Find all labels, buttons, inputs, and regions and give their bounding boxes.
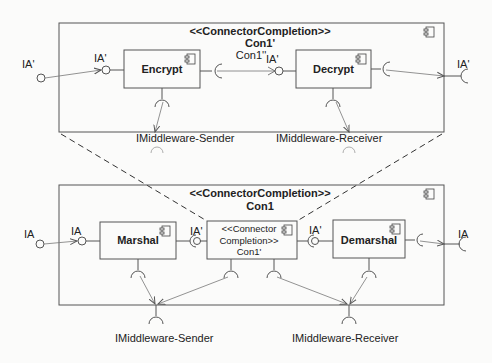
demarshal-port-label: IA': [309, 224, 322, 236]
connector-sender-socket: [224, 271, 238, 278]
encrypt-port-label: IA': [94, 52, 107, 64]
lower-outer-left-provided-port: [36, 240, 44, 248]
encrypt-label: Encrypt: [124, 63, 200, 75]
demarshal-component-icon: [390, 224, 400, 234]
zoom-line-right: [297, 134, 442, 221]
decrypt-label: Decrypt: [296, 63, 371, 75]
lower-outer-right-port-label: IA: [458, 228, 468, 240]
upper-composite-stereotype: <<ConnectorCompletion>>: [180, 25, 340, 37]
encrypt-provided-port: [102, 66, 110, 74]
lower-composite-name: Con1: [230, 200, 290, 212]
decrypt-port-label: IA': [266, 53, 279, 65]
lower-composite-stereotype: <<ConnectorCompletion>>: [180, 187, 340, 199]
lower-sender-outer-socket: [149, 317, 163, 324]
upper-outer-left-port-label: IA': [22, 58, 35, 70]
upper-outer-left-provided-port: [37, 74, 45, 82]
upper-receiver-interface-label: IMiddleware-Receiver: [276, 132, 382, 144]
zoom-line-left: [61, 134, 207, 221]
demarshal-middleware-socket: [362, 271, 376, 278]
connector-receiver-socket: [267, 271, 281, 278]
decrypt-required-socket: [383, 62, 390, 76]
upper-outer-right-required-socket: [461, 69, 468, 83]
connector-completion-line1: <<Connector: [207, 223, 291, 234]
connector-completion-line2: Completion>>: [207, 235, 291, 246]
lower-outer-left-port-label: IA: [24, 228, 34, 240]
upper-outer-right-port-label: IA': [457, 58, 470, 70]
lower-receiver-interface-label: IMiddleware-Receiver: [292, 332, 398, 344]
marshal-provided-port: [78, 237, 86, 245]
demarshal-label: Demarshal: [333, 234, 405, 246]
marshal-port-label: IA: [71, 225, 81, 237]
lower-sender-interface-label: IMiddleware-Sender: [115, 332, 213, 344]
upper-sender-interface-label: IMiddleware-Sender: [136, 132, 234, 144]
lower-receiver-outer-socket: [342, 317, 356, 324]
marshal-middleware-socket: [131, 271, 145, 278]
demarshal-provided-port: [312, 238, 319, 245]
decrypt-provided-port: [275, 67, 283, 75]
connector-provided-port: [194, 238, 201, 245]
lower-composite-component-icon: [424, 189, 434, 199]
upper-composite-component-icon: [424, 27, 434, 37]
connector-completion-line3: Con1': [207, 246, 291, 257]
connector-port-label: IA': [190, 225, 203, 237]
marshal-label: Marshal: [100, 234, 176, 246]
demarshal-required-socket: [417, 234, 423, 246]
upper-composite-name: Con1': [230, 37, 290, 49]
